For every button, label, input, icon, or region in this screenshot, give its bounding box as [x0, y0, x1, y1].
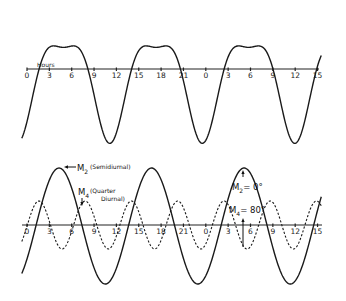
top-tick-label: 6: [69, 71, 74, 80]
m2-phase-label: M2= 0°: [232, 182, 263, 194]
top-tick-label: 0: [25, 71, 30, 80]
m4-phase-label: M4= 80°: [229, 205, 265, 217]
bottom-tick-label: 3: [47, 227, 52, 236]
top-tick-label: 3: [47, 71, 52, 80]
top-tick-label: 15: [134, 71, 144, 80]
bottom-tick-label: 12: [290, 227, 300, 236]
bottom-tick-label: 9: [270, 227, 275, 236]
m4-phase-arrowhead: [241, 218, 244, 222]
bottom-tick-label: 0: [203, 227, 208, 236]
m4-legend-label: M4 (Quarter Diurnal): [78, 187, 125, 206]
top-tick-label: 0: [203, 71, 208, 80]
top-panel: Hours 03691215182103691215: [22, 46, 323, 143]
m2-legend-label: M2 (Semidiurnal): [64, 163, 130, 175]
top-tick-label: 9: [92, 71, 97, 80]
phase-annotations: M2= 0° M4= 80°: [229, 170, 265, 247]
bottom-tick-label: 9: [92, 227, 97, 236]
m2-pointer-arrowhead: [64, 165, 68, 169]
m2-phase-arrowhead: [241, 170, 244, 174]
combined-tide-curve: [22, 46, 321, 143]
bottom-tick-label: 0: [25, 227, 30, 236]
bottom-tick-label: 15: [313, 227, 323, 236]
bottom-tick-label: 21: [179, 227, 189, 236]
bottom-tick-label: 12: [112, 227, 122, 236]
bottom-tick-label: 6: [248, 227, 253, 236]
bottom-tick-label: 3: [226, 227, 231, 236]
tidal-diagram: Hours 03691215182103691215 0369121518210…: [0, 0, 346, 301]
top-tick-label: 12: [112, 71, 122, 80]
top-tick-label: 12: [290, 71, 300, 80]
m4-label-main: M4: [78, 187, 89, 199]
top-tick-label: 18: [156, 71, 166, 80]
top-tick-label: 3: [226, 71, 231, 80]
m4-label-note-line1: (Quarter: [90, 187, 116, 194]
m2-label-main: M2: [77, 163, 88, 175]
bottom-tick-label: 15: [134, 227, 144, 236]
top-tick-label: 6: [248, 71, 253, 80]
bottom-panel: 03691215182103691215 M2 (Semidiurnal) M4…: [22, 163, 323, 284]
m2-label-note: (Semidiurnal): [90, 163, 130, 170]
m2-semidiurnal-curve: [22, 168, 321, 284]
m4-label-note-line2: Diurnal): [101, 195, 125, 202]
bottom-tick-label: 18: [156, 227, 166, 236]
